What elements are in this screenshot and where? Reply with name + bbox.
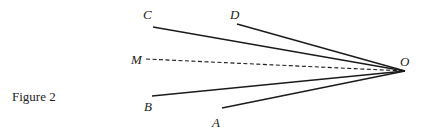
label-o: O [400, 54, 410, 69]
ray-oa [222, 71, 405, 108]
label-m: M [130, 52, 143, 67]
label-c: C [143, 7, 152, 22]
ray-ob [152, 71, 405, 96]
angle-diagram: C D M B A O [0, 0, 421, 133]
label-a: A [211, 115, 220, 130]
label-b: B [144, 99, 152, 114]
ray-oc [153, 27, 405, 71]
label-d: D [229, 7, 240, 22]
ray-od [237, 24, 405, 71]
